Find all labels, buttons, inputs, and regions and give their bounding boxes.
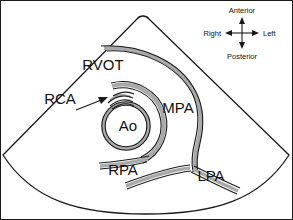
echocardiogram-diagram: RVOT RCA Ao MPA RPA LPA Anterior Posteri…	[0, 0, 293, 220]
compass-posterior-arrow-icon	[239, 42, 245, 49]
compass-right-arrow-icon	[225, 30, 232, 36]
compass-anterior-arrow-icon	[239, 17, 245, 24]
compass-label-posterior: Posterior	[227, 52, 258, 61]
label-rca: RCA	[44, 90, 76, 107]
label-rvot: RVOT	[82, 56, 123, 73]
label-rpa: RPA	[108, 161, 138, 178]
compass-label-right: Right	[203, 29, 221, 38]
label-lpa: LPA	[197, 167, 224, 184]
label-mpa: MPA	[162, 99, 193, 116]
compass-label-left: Left	[263, 29, 276, 38]
label-ao: Ao	[119, 117, 137, 134]
compass-left-arrow-icon	[252, 30, 259, 36]
compass-label-anterior: Anterior	[229, 6, 256, 15]
figure-root: RVOT RCA Ao MPA RPA LPA Anterior Posteri…	[0, 0, 293, 220]
rca-pointer-arrow	[76, 97, 108, 110]
orientation-compass: Anterior Posterior Right Left	[203, 6, 276, 61]
